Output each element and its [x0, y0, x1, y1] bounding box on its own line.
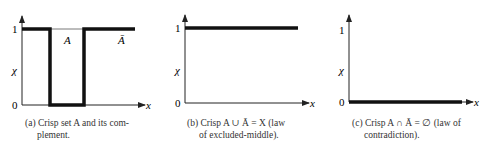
- panel-a-label-chi: χ: [11, 64, 18, 76]
- caption-c-line1: (c) Crisp A ∩ Ā = ∅ (law of: [352, 118, 461, 128]
- panel-c-label-x: x: [473, 96, 479, 108]
- caption-c: (c) Crisp A ∩ Ā = ∅ (law of contradictio…: [352, 117, 461, 141]
- panel-c-chart: [349, 15, 473, 102]
- caption-a: (a) Crisp set A and its com- plement.: [25, 117, 129, 141]
- panel-a-label-Abar: Ā: [117, 34, 125, 46]
- panel-a-label-zero: 0: [12, 99, 18, 111]
- panel-b-label-one: 1: [175, 22, 181, 34]
- caption-b-line1: (b) Crisp A ∪ Ā = X (law: [187, 118, 285, 128]
- panel-a-chart: [22, 16, 145, 105]
- caption-c-line2: contradiction).: [352, 129, 461, 141]
- caption-b: (b) Crisp A ∪ Ā = X (law of excluded-mid…: [187, 117, 285, 141]
- panel-a-label-one: 1: [12, 23, 18, 35]
- panel-c-label-zero: 0: [339, 96, 345, 108]
- panel-b-label-x: x: [309, 97, 315, 109]
- panel-a-label-A: A: [63, 34, 71, 46]
- caption-a-line2: plement.: [25, 129, 129, 141]
- panel-a-label-x: x: [145, 99, 151, 111]
- panel-b-label-chi: χ: [174, 64, 181, 76]
- panel-b-label-zero: 0: [175, 97, 181, 109]
- panel-b-chart: [185, 15, 309, 103]
- caption-a-line1: (a) Crisp set A and its com-: [25, 118, 129, 128]
- caption-b-line2: of excluded-middle).: [187, 129, 285, 141]
- panel-c-label-one: 1: [339, 24, 345, 36]
- panel-c-label-chi: χ: [338, 64, 345, 76]
